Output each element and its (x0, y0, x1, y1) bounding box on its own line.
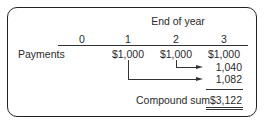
column-header-3: 3 (221, 33, 227, 45)
connector-year-2-horizontal (176, 67, 198, 68)
payment-year-2: $1,000 (160, 48, 192, 60)
header-divider (58, 45, 248, 46)
compounded-value-year-1: 1,082 (216, 73, 242, 85)
payment-year-1: $1,000 (112, 48, 144, 60)
compounded-value-year-2: 1,040 (216, 61, 242, 73)
connector-year-1 (128, 60, 129, 80)
sum-divider (206, 89, 243, 90)
payment-year-3: $1,000 (208, 48, 240, 60)
double-underline-top (206, 107, 243, 108)
compound-sum-label: Compound sum (136, 94, 210, 106)
double-underline-bottom (206, 109, 243, 110)
arrow-right-icon (196, 65, 203, 69)
row-label-payments: Payments (18, 48, 65, 60)
compound-sum-value: $3,122 (210, 94, 242, 106)
column-header-2: 2 (173, 33, 179, 45)
arrow-right-icon (196, 77, 203, 81)
header-title: End of year (151, 15, 205, 27)
connector-year-1-horizontal (128, 79, 198, 80)
column-header-0: 0 (79, 33, 85, 45)
column-header-1: 1 (125, 33, 131, 45)
